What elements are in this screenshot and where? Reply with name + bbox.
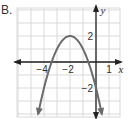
x-tick-label: −4 (36, 64, 48, 75)
graph: −4−212−2xy (0, 0, 129, 119)
x-tick-label: 1 (106, 64, 112, 75)
curve-arrow-left-icon (36, 107, 43, 116)
y-tick-label: 2 (87, 31, 93, 42)
x-tick-label: −2 (62, 64, 74, 75)
curve-arrow-right-icon (97, 107, 104, 116)
y-axis-label: y (100, 4, 106, 16)
y-tick-label: −2 (82, 83, 94, 94)
y-axis-arrow-down-icon (93, 112, 99, 119)
axes (13, 4, 123, 119)
x-axis-label: x (118, 63, 124, 75)
